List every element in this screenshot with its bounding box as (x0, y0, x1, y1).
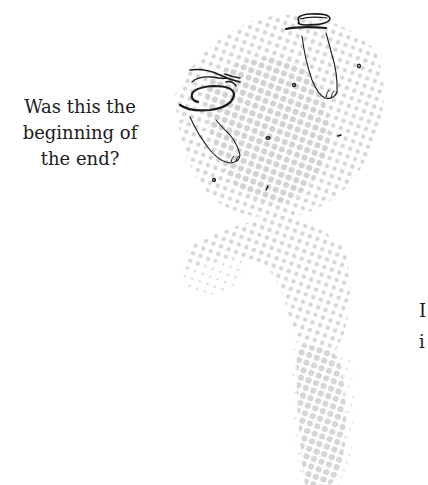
cropped-side-text: I i (419, 295, 426, 357)
caption-line: beginning of (0, 120, 160, 146)
halftone-middle-area (180, 215, 350, 360)
side-text-line: I (419, 295, 426, 326)
halftone-lower-area (292, 339, 355, 485)
halftone-figure-illustration (0, 0, 428, 485)
caption-line: the end? (0, 146, 160, 172)
caption-line: Was this the (0, 94, 160, 120)
side-text-line: i (419, 326, 426, 357)
caption-text: Was this the beginning of the end? (0, 94, 160, 172)
halftone-upper-area (175, 15, 384, 218)
